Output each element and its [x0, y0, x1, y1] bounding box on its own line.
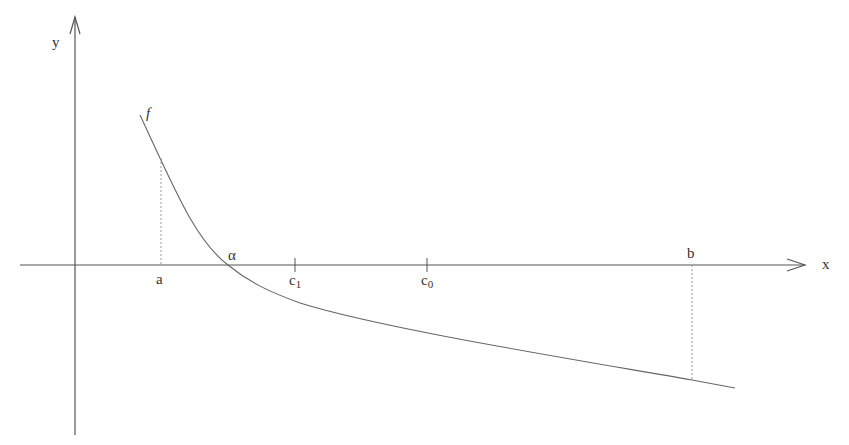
point-b-label: b: [687, 245, 695, 261]
point-a-label: a: [156, 271, 163, 287]
bisection-diagram: x y f a α c1 c0 b: [0, 0, 849, 445]
point-c1-label: c1: [289, 272, 301, 290]
function-label: f: [146, 105, 152, 121]
y-axis-label: y: [52, 34, 60, 50]
point-c0-label: c0: [421, 272, 434, 290]
x-axis-label: x: [822, 256, 830, 272]
root-alpha-label: α: [228, 247, 236, 263]
